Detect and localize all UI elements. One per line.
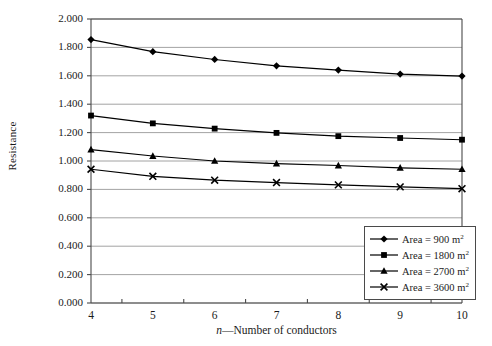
legend-unit-exponent: 2 xyxy=(460,232,464,240)
y-tick-label: 1.800 xyxy=(29,41,83,52)
y-tick-label: 1.400 xyxy=(29,98,83,109)
y-tick-label: 1.200 xyxy=(29,127,83,138)
x-axis-title: n—Number of conductors xyxy=(91,324,462,336)
legend-item-label: Area = 2700 m2 xyxy=(399,266,469,277)
y-tick-label: 0.800 xyxy=(29,183,83,194)
legend-unit-exponent: 2 xyxy=(465,248,469,256)
legend-marker-diamond-icon xyxy=(369,232,399,246)
y-tick-label: 0.000 xyxy=(29,297,83,308)
legend-item-label: Area = 900 m2 xyxy=(399,234,464,245)
legend: Area = 900 m2Area = 1800 m2Area = 2700 m… xyxy=(364,226,476,300)
x-axis-title-text: —Number of conductors xyxy=(222,324,337,336)
legend-item-label: Area = 1800 m2 xyxy=(399,250,469,261)
legend-item: Area = 900 m2 xyxy=(369,231,469,247)
y-tick-label: 0.200 xyxy=(29,269,83,280)
legend-marker-cross-icon xyxy=(369,280,399,294)
x-tick-label: 9 xyxy=(380,310,420,322)
resistance-line-chart: Resistance 0.0000.2000.4000.6000.8001.00… xyxy=(0,0,492,346)
data-series-layer xyxy=(87,36,465,192)
legend-item: Area = 3600 m2 xyxy=(369,279,469,295)
legend-unit-exponent: 2 xyxy=(465,280,469,288)
legend-item-label: Area = 3600 m2 xyxy=(399,282,469,293)
y-tick-label: 1.600 xyxy=(29,70,83,81)
x-tick-label: 10 xyxy=(442,310,482,322)
y-tick-label: 0.600 xyxy=(29,212,83,223)
x-tick-label: 8 xyxy=(318,310,358,322)
y-tick-label: 0.400 xyxy=(29,240,83,251)
legend-item: Area = 2700 m2 xyxy=(369,263,469,279)
legend-unit-exponent: 2 xyxy=(465,264,469,272)
y-tick-label: 1.000 xyxy=(29,155,83,166)
x-tick-label: 7 xyxy=(257,310,297,322)
x-tick-label: 4 xyxy=(71,310,111,322)
legend-marker-square-icon xyxy=(369,248,399,262)
y-tick-label: 2.000 xyxy=(29,13,83,24)
legend-item: Area = 1800 m2 xyxy=(369,247,469,263)
x-tick-label: 6 xyxy=(195,310,235,322)
x-tick-label: 5 xyxy=(133,310,173,322)
legend-marker-triangle-icon xyxy=(369,264,399,278)
y-axis-ticks xyxy=(87,19,91,303)
